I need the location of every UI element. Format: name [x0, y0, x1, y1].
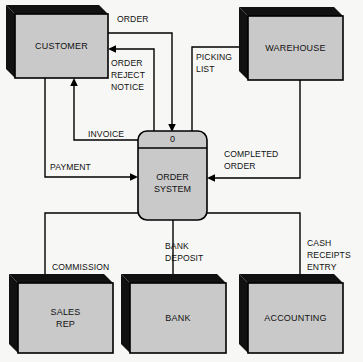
flow-label-order-reject-notice-line2: REJECT	[111, 70, 146, 80]
flow-commission	[41, 213, 138, 283]
process-order-system-name-line2: SYSTEM	[154, 184, 191, 194]
entity-accounting-side-shadow	[239, 274, 248, 353]
process-order-system[interactable]: 0 ORDER SYSTEM	[138, 131, 207, 220]
entity-accounting-top-shadow	[239, 274, 343, 283]
entity-warehouse-side-shadow	[239, 7, 248, 80]
flow-label-order-reject-notice-line1: ORDER	[111, 58, 143, 68]
entity-sales-rep-label-line2: REP	[56, 319, 75, 329]
flow-label-completed-order-line2: ORDER	[224, 161, 256, 171]
flow-invoice-arrowhead	[70, 78, 78, 86]
flow-label-cash-receipts-entry-line3: ENTRY	[307, 262, 337, 272]
entity-accounting-label: ACCOUNTING	[264, 313, 327, 323]
entity-bank[interactable]: BANK	[121, 274, 226, 353]
entity-customer-top-shadow	[6, 5, 108, 14]
entity-sales-rep-label-line1: SALES	[50, 307, 80, 317]
data-flow-diagram: CUSTOMER WAREHOUSE SALES REP BANK	[0, 0, 363, 362]
flow-bank-deposit	[169, 220, 177, 283]
entity-sales-rep-side-shadow	[9, 274, 18, 353]
flow-order-reject-notice-arrowhead	[108, 45, 116, 53]
flow-label-picking-list-line2: LIST	[196, 64, 215, 74]
flow-label-commission: COMMISSION	[52, 262, 109, 272]
entity-sales-rep-face	[18, 283, 113, 353]
entity-customer[interactable]: CUSTOMER	[6, 5, 108, 78]
flow-label-bank-deposit-line1: BANK	[165, 241, 189, 251]
entity-customer-side-shadow	[6, 5, 15, 78]
flow-label-cash-receipts-entry-line1: CASH	[307, 238, 331, 248]
entity-warehouse-label: WAREHOUSE	[265, 43, 325, 53]
flow-label-order-reject-notice-line3: NOTICE	[111, 82, 144, 92]
entity-customer-label: CUSTOMER	[35, 41, 88, 51]
flow-label-order: ORDER	[117, 14, 149, 24]
flow-label-picking-list-line1: PICKING	[196, 52, 232, 62]
process-order-system-name-line1: ORDER	[156, 172, 189, 182]
entity-warehouse[interactable]: WAREHOUSE	[239, 7, 343, 80]
flow-label-invoice: INVOICE	[88, 129, 124, 139]
flow-completed-order-arrowhead	[207, 174, 215, 182]
entity-bank-top-shadow	[121, 274, 226, 283]
flow-cash-receipts-entry	[207, 213, 304, 283]
entity-bank-label: BANK	[165, 313, 190, 323]
flow-label-cash-receipts-entry-line2: RECEIPTS	[307, 250, 351, 260]
entity-warehouse-top-shadow	[239, 7, 343, 16]
entity-bank-side-shadow	[121, 274, 130, 353]
diagram-canvas: CUSTOMER WAREHOUSE SALES REP BANK	[0, 0, 363, 362]
flow-label-completed-order-line1: COMPLETED	[224, 149, 278, 159]
flow-payment-arrowhead	[130, 173, 138, 181]
flow-label-payment: PAYMENT	[50, 162, 92, 172]
entity-sales-rep-top-shadow	[9, 274, 113, 283]
flow-label-bank-deposit-line2: DEPOSIT	[165, 253, 204, 263]
process-order-system-number: 0	[170, 134, 175, 144]
entity-accounting[interactable]: ACCOUNTING	[239, 274, 343, 353]
flow-cash-receipts-entry-path	[207, 213, 300, 277]
entity-sales-rep[interactable]: SALES REP	[9, 274, 113, 353]
